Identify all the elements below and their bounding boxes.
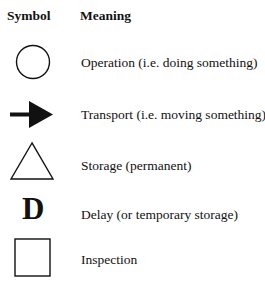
meaning-operation: Operation (i.e. doing something)	[81, 55, 258, 71]
triangle-icon	[9, 141, 55, 181]
meaning-column-header: Meaning	[80, 8, 131, 24]
square-icon	[14, 238, 52, 278]
letter-d-icon: D	[22, 193, 44, 224]
meaning-inspection: Inspection	[81, 252, 137, 268]
meaning-transport: Transport (i.e. moving something)	[81, 107, 265, 123]
meaning-delay: Delay (or temporary storage)	[81, 207, 238, 223]
circle-icon	[14, 43, 52, 81]
symbol-column-header: Symbol	[7, 8, 51, 24]
arrow-right-icon	[9, 100, 55, 130]
meaning-storage: Storage (permanent)	[81, 158, 192, 174]
